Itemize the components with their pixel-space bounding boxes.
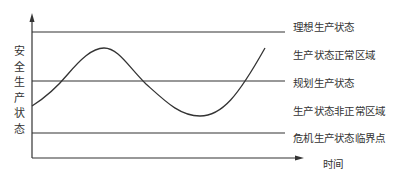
y-axis-label-char: 全 xyxy=(12,60,26,76)
y-axis-label-char: 状 xyxy=(12,106,26,122)
abnormal-region-label: 生产状态非正常区域 xyxy=(293,103,386,118)
safety-state-curve xyxy=(32,48,265,116)
crisis-threshold-label: 危机生产状态临界点 xyxy=(293,130,386,145)
y-axis-label: 安 全 生 产 状 态 xyxy=(12,44,26,137)
y-axis-label-char: 态 xyxy=(12,122,26,138)
y-axis-label-char: 产 xyxy=(12,91,26,107)
y-axis-arrow-icon xyxy=(30,13,35,22)
normal-region-label: 生产状态正常区域 xyxy=(293,47,375,62)
y-axis-label-char: 生 xyxy=(12,75,26,91)
planned-state-label: 规划生产状态 xyxy=(293,75,355,90)
ideal-state-label: 理想生产状态 xyxy=(293,19,355,34)
y-axis-label-char: 安 xyxy=(12,44,26,60)
x-axis-arrow-icon xyxy=(295,156,304,161)
x-axis-label: 时间 xyxy=(323,156,344,171)
